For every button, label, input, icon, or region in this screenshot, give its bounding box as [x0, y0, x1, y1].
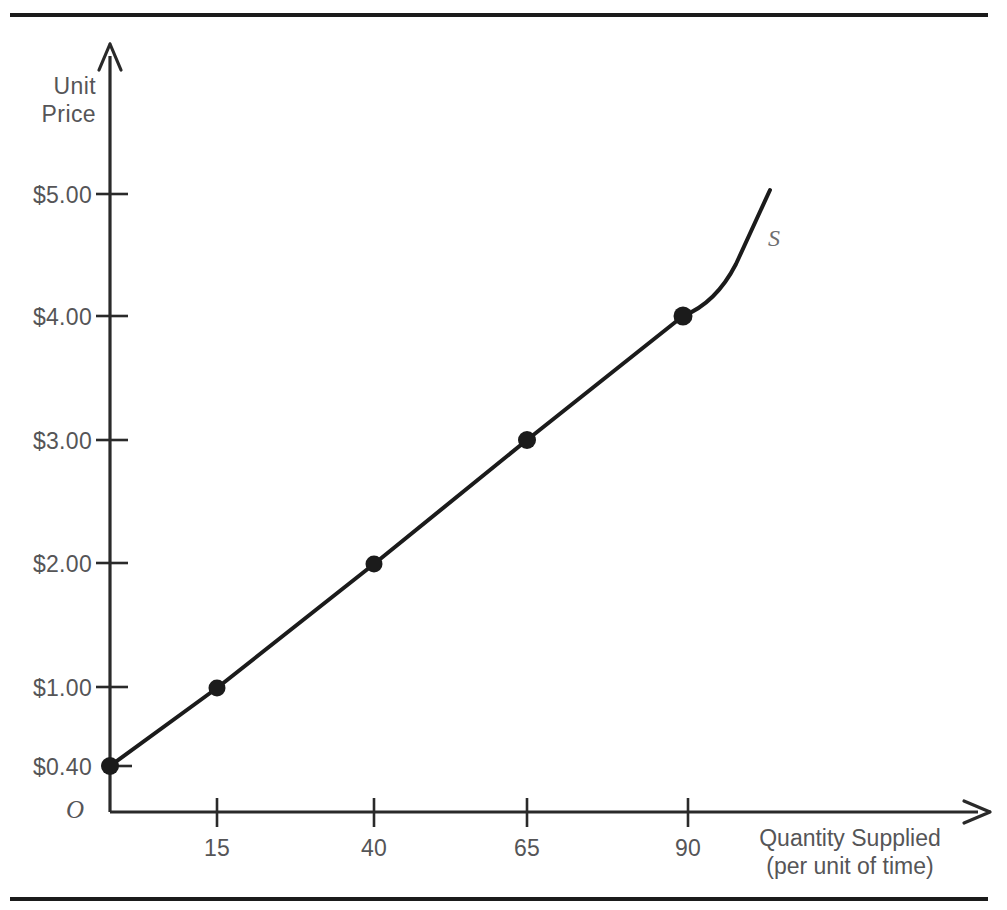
supply-curve-label: S — [768, 225, 780, 252]
supply-curve-plot — [0, 0, 1007, 910]
y-tick-label-4: $4.00 — [0, 304, 92, 331]
x-axis-title: Quantity Supplied (per unit of time) — [700, 824, 1000, 880]
x-tick-label-2: 65 — [497, 835, 557, 862]
y-axis-ticks — [96, 194, 132, 766]
x-axis-title-sub: (per unit of time) — [766, 853, 933, 879]
y-tick-label-2: $2.00 — [0, 551, 92, 578]
y-tick-label-3: $3.00 — [0, 428, 92, 455]
y-axis-title-line1: Unit — [53, 73, 96, 99]
y-tick-label-5: $5.00 — [0, 182, 92, 209]
x-tick-label-0: 15 — [187, 835, 247, 862]
chart-figure: Unit Price $5.00 $4.00 $3.00 $2.00 $1.00… — [0, 0, 1007, 910]
x-tick-label-1: 40 — [344, 835, 404, 862]
y-tick-label-0: $0.40 — [0, 754, 92, 781]
origin-label: O — [66, 796, 84, 824]
y-axis — [99, 44, 121, 812]
y-axis-title: Unit Price — [0, 72, 96, 128]
y-tick-label-1: $1.00 — [0, 675, 92, 702]
y-axis-title-line2: Price — [42, 101, 96, 127]
x-axis — [110, 801, 990, 823]
supply-curve-line — [110, 190, 770, 766]
x-axis-title-main: Quantity Supplied — [759, 825, 941, 851]
